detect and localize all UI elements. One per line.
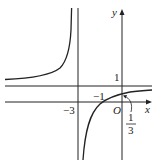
y-intercept-denominator: 3	[128, 124, 134, 136]
function-graph: y x O 1 −3 −1 1 3	[0, 0, 155, 160]
y-axis-label: y	[111, 6, 117, 18]
curve-left-branch	[5, 8, 72, 80]
y-axis-arrow	[120, 9, 125, 15]
vertical-asymptote-label: −3	[63, 104, 75, 116]
horizontal-asymptote-label: 1	[114, 71, 120, 83]
x-intercept-label: −1	[93, 90, 105, 102]
x-axis-label: x	[144, 103, 150, 115]
y-intercept-numerator: 1	[128, 111, 134, 123]
origin-label: O	[113, 104, 121, 116]
y-intercept-leader	[124, 96, 132, 112]
